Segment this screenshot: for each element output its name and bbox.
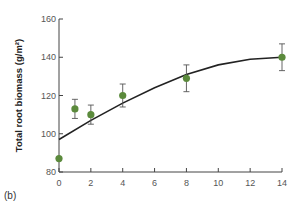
data-point — [183, 75, 190, 82]
root-biomass-chart: 8010012014016002468101214Total root biom… — [0, 0, 298, 207]
x-tick-label: 2 — [88, 178, 93, 188]
panel-label: (b) — [4, 190, 16, 201]
x-tick-label: 14 — [277, 178, 287, 188]
data-point — [278, 54, 285, 61]
x-tick-label: 10 — [213, 178, 223, 188]
x-tick-label: 0 — [56, 178, 61, 188]
y-tick-label: 120 — [41, 91, 56, 101]
data-point — [71, 105, 78, 112]
data-point — [119, 92, 126, 99]
y-axis-label: Total root biomass (g/m²) — [13, 39, 24, 152]
x-tick-label: 8 — [184, 178, 189, 188]
y-tick-label: 140 — [41, 52, 56, 62]
fitted-curve — [59, 57, 282, 139]
y-tick-label: 100 — [41, 129, 56, 139]
data-point — [87, 111, 94, 118]
x-tick-label: 12 — [245, 178, 255, 188]
y-tick-label: 160 — [41, 14, 56, 24]
data-point — [55, 155, 62, 162]
x-tick-label: 6 — [152, 178, 157, 188]
y-tick-label: 80 — [46, 167, 56, 177]
x-tick-label: 4 — [120, 178, 125, 188]
